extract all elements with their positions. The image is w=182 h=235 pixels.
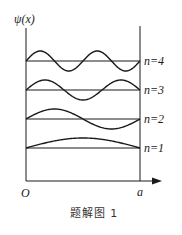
figure-caption: 题解图 1: [0, 204, 182, 220]
level-label-n2: n=2: [144, 113, 164, 125]
level-label-n4: n=4: [144, 55, 164, 67]
y-axis-label: ψ(x): [14, 13, 35, 25]
wall-label-a: a: [137, 186, 143, 198]
x-axis-arrow-icon: [152, 178, 162, 185]
level-label-n3: n=3: [144, 84, 164, 96]
level-label-n1: n=1: [144, 142, 164, 154]
wavefunction-n1: [26, 138, 140, 148]
origin-label: O: [21, 187, 30, 199]
